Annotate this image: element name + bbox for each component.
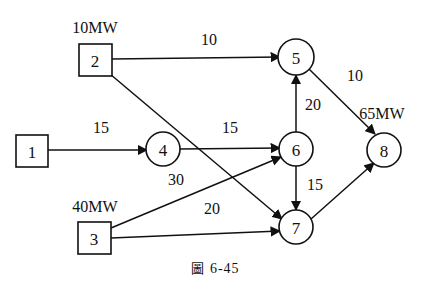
node-3-capacity: 40MW — [72, 198, 118, 215]
node-5-label: 5 — [292, 49, 301, 68]
node-group — [16, 39, 401, 254]
edge-2-to-7 — [110, 74, 282, 219]
edge-label-3-to-7: 20 — [204, 200, 220, 217]
edge-label-4-to-6: 15 — [222, 119, 238, 136]
figure-caption: 圖 6-45 — [0, 258, 431, 277]
edge-4-to-6 — [180, 148, 280, 149]
node-7-label: 7 — [292, 219, 301, 238]
edge-label-2-to-7: 30 — [168, 171, 184, 188]
node-8-capacity: 65MW — [359, 105, 405, 122]
node-2-capacity: 10MW — [72, 19, 118, 36]
edge-label-5-to-8: 10 — [347, 67, 363, 84]
node-capacity-group: 10MW 40MW 65MW — [72, 19, 405, 215]
node-6-label: 6 — [292, 141, 301, 160]
edge-3-to-7 — [111, 231, 280, 238]
edge-3-to-6 — [111, 157, 281, 228]
edge-label-6-to-7: 15 — [307, 176, 323, 193]
figure-caption-cjk: 圖 — [191, 261, 205, 276]
node-8-label: 8 — [380, 142, 389, 161]
edge-label-1-to-4: 15 — [93, 119, 109, 136]
edge-2-to-5 — [112, 57, 280, 59]
figure-caption-number: 6-45 — [210, 261, 240, 276]
node-2-label: 2 — [91, 52, 100, 71]
edge-label-6-to-5: 20 — [305, 96, 321, 113]
edge-label-2-to-5: 10 — [201, 31, 217, 48]
figure-container: — — — — — — [0, 0, 431, 288]
node-3-label: 3 — [90, 230, 99, 249]
node-1-label: 1 — [28, 143, 37, 162]
network-diagram: 1 2 3 4 5 6 7 8 10MW 40MW 65MW 15 10 30 … — [0, 0, 431, 288]
node-4-label: 4 — [159, 141, 168, 160]
